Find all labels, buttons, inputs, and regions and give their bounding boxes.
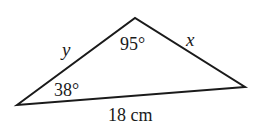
side-y-label: y — [60, 39, 71, 60]
triangle-figure: 95° 38° y x 18 cm — [0, 0, 258, 133]
side-x-label: x — [185, 29, 195, 50]
angle-left-label: 38° — [54, 80, 79, 100]
triangle-diagram: 95° 38° y x 18 cm — [0, 0, 258, 133]
angle-top-label: 95° — [120, 34, 145, 54]
triangle-shape — [17, 18, 245, 105]
base-length-label: 18 cm — [108, 105, 153, 125]
